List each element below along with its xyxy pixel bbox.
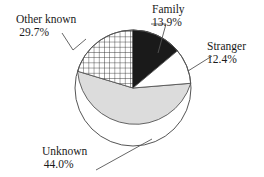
slice-label-stranger-percent: 12.4% — [207, 53, 247, 66]
slice-label-unknown-percent: 44.0% — [42, 158, 87, 171]
slice-label-family: Family 13.9% — [152, 3, 189, 29]
slice-label-other-known-name: Other known — [16, 13, 76, 26]
slice-label-unknown: Unknown 44.0% — [42, 145, 87, 171]
pie-chart-figure: Family 13.9% Stranger 12.4% Other known … — [0, 0, 264, 177]
slice-label-other-known: Other known 29.7% — [16, 13, 76, 39]
slice-label-other-known-percent: 29.7% — [16, 26, 76, 39]
slice-label-family-name: Family — [152, 3, 189, 16]
slice-label-unknown-name: Unknown — [42, 145, 87, 158]
slice-label-stranger: Stranger 12.4% — [207, 40, 247, 66]
leader-line-unknown — [96, 139, 152, 170]
slice-label-stranger-name: Stranger — [207, 40, 247, 53]
slice-label-family-percent: 13.9% — [152, 16, 189, 29]
